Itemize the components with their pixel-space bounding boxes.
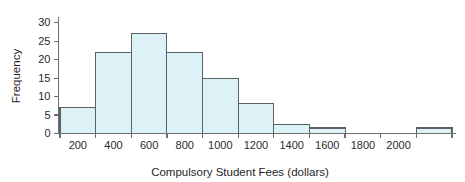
histogram-figure: 051015202530 200400600800100012001400160… bbox=[0, 0, 465, 182]
x-axis-tick-label: 2000 bbox=[386, 139, 410, 151]
histogram-bar bbox=[167, 52, 203, 133]
x-axis-tick-label: 1400 bbox=[279, 139, 303, 151]
histogram-bar bbox=[416, 128, 452, 134]
x-axis-tick-labels: 200400600800100012001400160018002000 bbox=[69, 139, 411, 151]
histogram-bar bbox=[203, 78, 239, 133]
histogram-bar bbox=[60, 108, 96, 134]
y-axis-tick-label: 20 bbox=[38, 53, 50, 65]
y-axis-title: Frequency bbox=[10, 49, 22, 104]
y-axis-tick-label: 30 bbox=[38, 16, 50, 28]
histogram-bar bbox=[274, 124, 310, 133]
x-axis-tick-label: 1200 bbox=[244, 139, 268, 151]
x-axis-tick-label: 800 bbox=[176, 139, 194, 151]
y-axis-tick-label: 5 bbox=[44, 109, 50, 121]
histogram-plot: 051015202530 200400600800100012001400160… bbox=[0, 0, 465, 182]
x-axis-tick-label: 1800 bbox=[351, 139, 375, 151]
x-axis-tick-label: 200 bbox=[69, 139, 87, 151]
y-axis-tick-label: 0 bbox=[44, 127, 50, 139]
x-axis-tick-label: 400 bbox=[104, 139, 122, 151]
x-axis-tick-label: 1000 bbox=[208, 139, 232, 151]
histogram-bar bbox=[131, 34, 167, 134]
bars-group bbox=[60, 34, 452, 134]
histogram-bar bbox=[96, 52, 132, 133]
histogram-bar bbox=[309, 128, 345, 134]
x-axis-title: Compulsory Student Fees (dollars) bbox=[151, 166, 329, 178]
y-axis-tick-label: 10 bbox=[38, 90, 50, 102]
x-axis-tick-label: 600 bbox=[140, 139, 158, 151]
y-axis-tick-label: 15 bbox=[38, 72, 50, 84]
x-axis-tick-label: 1600 bbox=[315, 139, 339, 151]
histogram-bar bbox=[238, 104, 274, 134]
y-axis-tick-label: 25 bbox=[38, 35, 50, 47]
y-axis-tick-labels: 051015202530 bbox=[38, 16, 50, 139]
